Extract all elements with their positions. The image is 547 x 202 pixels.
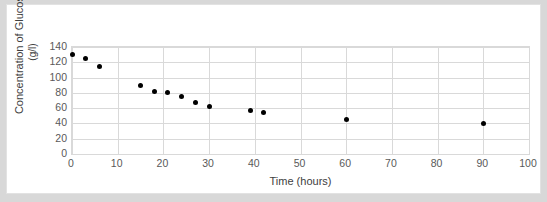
vertical-gridline bbox=[118, 47, 119, 154]
data-point bbox=[83, 56, 88, 61]
y-axis-tick-label: 60 bbox=[41, 102, 67, 112]
x-axis-tick-label: 60 bbox=[325, 157, 365, 169]
data-point bbox=[97, 64, 102, 69]
vertical-gridline bbox=[209, 47, 210, 154]
data-point bbox=[207, 104, 212, 109]
x-axis-tick-label: 0 bbox=[51, 157, 91, 169]
x-axis-tick-labels: 0102030405060708090100 bbox=[71, 157, 530, 171]
data-point bbox=[261, 110, 266, 115]
y-axis-tick-label: 80 bbox=[41, 87, 67, 97]
y-axis-tick-label: 140 bbox=[41, 41, 67, 51]
data-point bbox=[193, 100, 198, 105]
vertical-gridline bbox=[72, 47, 73, 154]
x-axis-tick-label: 10 bbox=[97, 157, 137, 169]
data-point bbox=[138, 83, 143, 88]
x-axis-tick-label: 50 bbox=[280, 157, 320, 169]
x-axis-tick-label: 70 bbox=[371, 157, 411, 169]
x-axis-tick-label: 80 bbox=[417, 157, 457, 169]
x-axis-tick-label: 100 bbox=[508, 157, 547, 169]
vertical-gridline bbox=[163, 47, 164, 154]
vertical-gridline bbox=[483, 47, 484, 154]
y-axis-tick-label: 40 bbox=[41, 117, 67, 127]
chart-container: Concentration of Glucose (g/l) 020406080… bbox=[6, 4, 541, 194]
horizontal-gridline bbox=[72, 154, 529, 155]
data-point bbox=[165, 90, 170, 95]
plot-area bbox=[71, 46, 530, 155]
y-axis-tick-label: 100 bbox=[41, 72, 67, 82]
vertical-gridline bbox=[438, 47, 439, 154]
data-point bbox=[152, 89, 157, 94]
y-axis-title-line2: (g/l) bbox=[26, 0, 39, 117]
data-point bbox=[179, 94, 184, 99]
data-point bbox=[344, 117, 349, 122]
y-axis-tick-label: 120 bbox=[41, 56, 67, 66]
vertical-gridline bbox=[255, 47, 256, 154]
data-point bbox=[248, 108, 253, 113]
vertical-gridline bbox=[346, 47, 347, 154]
data-point bbox=[70, 52, 75, 57]
x-axis-tick-label: 40 bbox=[234, 157, 274, 169]
vertical-gridline bbox=[392, 47, 393, 154]
x-axis-title: Time (hours) bbox=[71, 175, 530, 187]
data-point bbox=[481, 121, 486, 126]
y-axis-title-line1: Concentration of Glucose bbox=[13, 0, 26, 117]
vertical-gridline bbox=[529, 47, 530, 154]
x-axis-tick-label: 30 bbox=[188, 157, 228, 169]
x-axis-tick-label: 90 bbox=[462, 157, 502, 169]
x-axis-tick-label: 20 bbox=[142, 157, 182, 169]
vertical-gridline bbox=[301, 47, 302, 154]
y-axis-tick-label: 20 bbox=[41, 133, 67, 143]
